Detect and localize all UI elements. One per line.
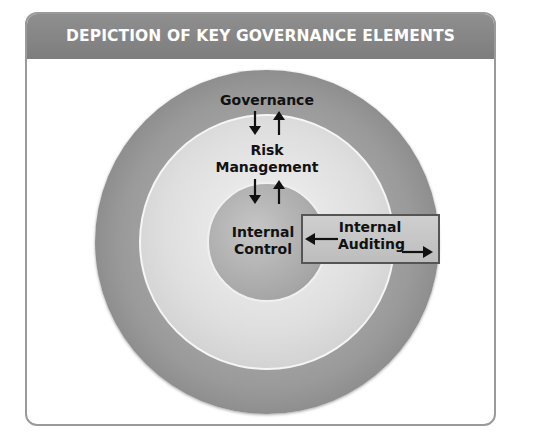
right-arrow-icon — [402, 246, 433, 258]
arrows-layer — [0, 0, 533, 447]
down-arrow-icon — [249, 179, 261, 204]
left-arrow-icon — [305, 233, 338, 245]
up-arrow-icon — [273, 180, 285, 204]
up-arrow-icon — [273, 111, 285, 135]
down-arrow-icon — [249, 111, 261, 135]
